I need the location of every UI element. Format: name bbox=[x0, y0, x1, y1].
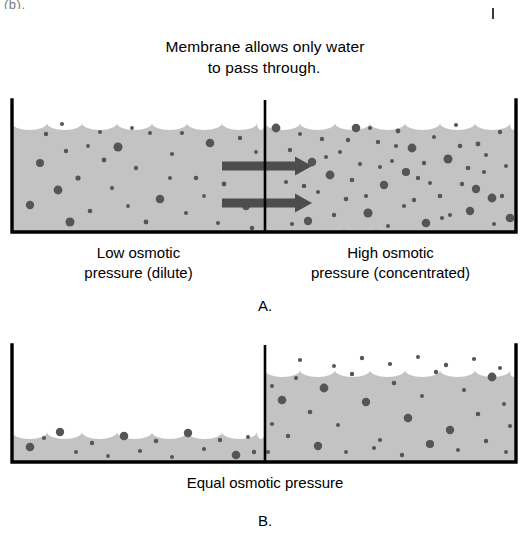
panel-a-right-label-line-2: pressure (concentrated) bbox=[265, 263, 516, 283]
panel-a-right-solution bbox=[265, 123, 516, 236]
solute-particle bbox=[394, 144, 398, 148]
solute-particle bbox=[290, 222, 294, 226]
solute-particle bbox=[400, 453, 404, 457]
solute-particle bbox=[298, 358, 302, 362]
solute-particle bbox=[130, 126, 134, 130]
panel-b-caption: Equal osmotic pressure bbox=[0, 474, 530, 491]
solute-particle bbox=[506, 214, 515, 223]
solute-particle bbox=[66, 218, 75, 227]
solute-particle bbox=[54, 186, 63, 195]
solute-particle bbox=[504, 450, 508, 454]
solute-particle bbox=[302, 184, 307, 189]
solute-particle bbox=[446, 426, 454, 434]
solute-particle bbox=[360, 356, 364, 360]
solute-particle bbox=[376, 140, 380, 144]
solute-particle bbox=[472, 357, 476, 361]
solute-particle bbox=[202, 194, 206, 198]
solute-particle bbox=[358, 162, 362, 166]
panel-a-left-solution bbox=[12, 122, 265, 232]
panel-b-right-solution bbox=[265, 355, 516, 462]
solute-particle bbox=[206, 139, 215, 148]
solute-particle bbox=[456, 448, 460, 452]
solute-particle bbox=[488, 194, 497, 203]
solute-particle bbox=[216, 221, 220, 225]
solute-particle bbox=[350, 178, 355, 183]
solute-particle bbox=[364, 209, 373, 218]
solute-particle bbox=[434, 370, 438, 374]
panel-b-left-solution bbox=[12, 428, 265, 462]
solute-particle bbox=[492, 222, 496, 226]
solute-particle bbox=[246, 435, 250, 439]
solute-particle bbox=[332, 213, 336, 217]
solute-particle bbox=[378, 438, 382, 442]
solute-particle bbox=[388, 362, 392, 366]
solute-particle bbox=[404, 414, 413, 423]
solute-particle bbox=[270, 422, 274, 426]
solute-particle bbox=[114, 143, 123, 152]
solute-particle bbox=[502, 402, 506, 406]
solute-particle bbox=[180, 131, 184, 135]
solute-particle bbox=[402, 168, 410, 176]
solute-particle bbox=[346, 138, 350, 142]
solute-particle bbox=[482, 170, 486, 174]
solute-particle bbox=[426, 440, 434, 448]
solute-particle bbox=[420, 394, 424, 398]
solute-particle bbox=[90, 441, 94, 445]
solute-particle bbox=[250, 226, 255, 231]
solute-particle bbox=[416, 176, 420, 180]
solute-particle bbox=[278, 396, 287, 405]
solute-particle bbox=[102, 158, 107, 163]
panel-b-left-water-body bbox=[12, 432, 265, 462]
solute-particle bbox=[432, 135, 436, 139]
panel-a-left-water-body bbox=[12, 123, 265, 232]
solute-particle bbox=[134, 166, 138, 170]
solute-particle bbox=[138, 449, 142, 453]
solute-particle bbox=[444, 363, 448, 367]
solute-particle bbox=[476, 142, 481, 147]
solute-particle bbox=[75, 175, 80, 180]
solute-particle bbox=[272, 124, 281, 133]
solute-particle bbox=[444, 155, 453, 164]
panel-a-container bbox=[12, 100, 516, 236]
solute-particle bbox=[402, 204, 406, 208]
solute-particle bbox=[26, 443, 35, 452]
solute-particle bbox=[428, 181, 432, 185]
solute-particle bbox=[408, 144, 417, 153]
solute-particle bbox=[386, 224, 390, 228]
solute-particle bbox=[170, 455, 174, 459]
solute-particle bbox=[364, 194, 368, 198]
solute-particle bbox=[350, 372, 354, 376]
solute-particle bbox=[338, 150, 342, 154]
solute-particle bbox=[412, 198, 416, 202]
solute-particle bbox=[504, 164, 508, 168]
solute-particle bbox=[284, 180, 288, 184]
solute-particle bbox=[472, 185, 480, 193]
solute-particle bbox=[448, 213, 452, 217]
solute-particle bbox=[42, 436, 46, 440]
solute-particle bbox=[144, 220, 149, 225]
solute-particle bbox=[74, 450, 78, 454]
solute-particle bbox=[336, 423, 340, 427]
solute-particle bbox=[392, 381, 397, 386]
solute-particle bbox=[326, 171, 335, 180]
solute-particle bbox=[362, 398, 370, 406]
solute-particle bbox=[294, 376, 298, 380]
solute-particle bbox=[254, 150, 258, 154]
solute-particle bbox=[454, 123, 458, 127]
solute-particle bbox=[154, 439, 159, 444]
solute-particle bbox=[44, 132, 48, 136]
solute-particle bbox=[332, 364, 336, 368]
solute-particle bbox=[488, 373, 497, 382]
solute-particle bbox=[344, 450, 348, 454]
solute-particle bbox=[314, 442, 322, 450]
solute-particle bbox=[170, 152, 174, 156]
solute-particle bbox=[352, 124, 361, 133]
solute-particle bbox=[380, 181, 388, 189]
solute-particle bbox=[308, 410, 313, 415]
osmosis-diagram: (b). Membrane allows only water to pass … bbox=[0, 0, 530, 537]
solute-particle bbox=[238, 136, 242, 140]
solute-particle bbox=[168, 176, 172, 180]
solute-particle bbox=[86, 144, 90, 148]
solute-particle bbox=[462, 388, 466, 392]
solute-particle bbox=[498, 130, 502, 134]
